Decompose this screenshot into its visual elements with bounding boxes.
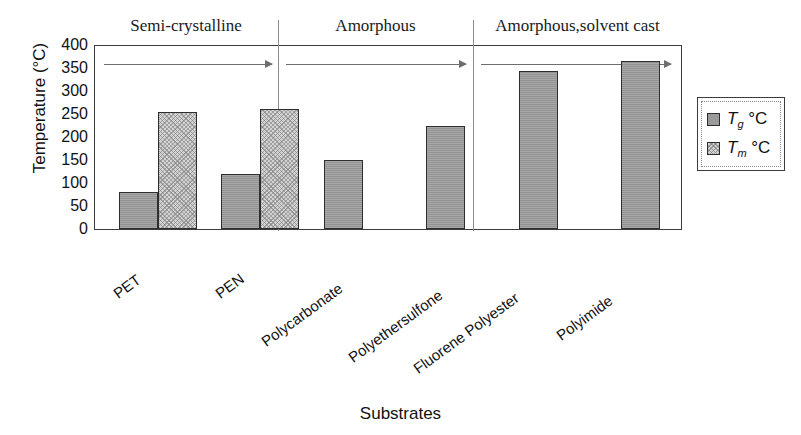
- y-tick-50: 50: [40, 198, 88, 214]
- plot-area: [94, 45, 682, 230]
- x-tick-polyimide: Polyimide: [553, 292, 616, 344]
- bar-polycarbonate-tg[interactable]: [324, 160, 363, 229]
- y-tick-400: 400: [40, 37, 88, 53]
- x-axis-title: Substrates: [0, 404, 801, 424]
- bar-pet-tg[interactable]: [119, 192, 158, 229]
- group-title-amorphous: Amorphous: [278, 16, 473, 36]
- bar-polyimide-tg[interactable]: [621, 61, 660, 229]
- y-axis-tick-labels: 400 350 300 250 200 150 100 50 0: [36, 0, 88, 435]
- legend-label-tg: Tg °C: [727, 109, 767, 130]
- y-tick-100: 100: [40, 175, 88, 191]
- x-tick-polycarbonate: Polycarbonate: [258, 280, 346, 350]
- x-tick-pet: PET: [110, 271, 144, 302]
- y-tick-150: 150: [40, 152, 88, 168]
- y-tick-200: 200: [40, 129, 88, 145]
- group-title-semi-crystalline: Semi-crystalline: [94, 16, 278, 36]
- bar-pen-tg[interactable]: [221, 174, 260, 229]
- group-arrow-amorphous: [286, 60, 466, 69]
- y-tick-300: 300: [40, 83, 88, 99]
- chart-canvas: Temperature (°C) 400 350 300 250 200 150…: [0, 0, 801, 435]
- y-tick-250: 250: [40, 106, 88, 122]
- legend-item-tg[interactable]: Tg °C: [707, 105, 784, 134]
- bar-pet-tm[interactable]: [158, 112, 197, 229]
- bar-pen-tm[interactable]: [260, 109, 299, 230]
- bar-fluorene-polyester-tg[interactable]: [519, 71, 558, 229]
- y-tick-350: 350: [40, 60, 88, 76]
- group-title-amorphous-solvent-cast: Amorphous,solvent cast: [473, 16, 682, 36]
- legend-label-tm: Tm °C: [727, 138, 770, 159]
- legend-subscript-tm: m: [737, 147, 746, 159]
- legend-subscript-tg: g: [737, 118, 743, 130]
- legend-unit-tm: °C: [751, 138, 770, 157]
- legend-symbol-tg: T: [727, 109, 737, 128]
- legend-unit-tg: °C: [748, 109, 767, 128]
- legend-swatch-tm-icon: [707, 142, 720, 155]
- legend-symbol-tm: T: [727, 138, 737, 157]
- legend-swatch-tg-icon: [707, 113, 720, 126]
- legend-item-tm[interactable]: Tm °C: [707, 134, 784, 163]
- group-divider-2: [473, 20, 474, 231]
- group-arrow-semi-crystalline: [104, 60, 272, 69]
- bar-polyethersulfone-tg[interactable]: [426, 126, 465, 229]
- x-tick-pen: PEN: [212, 270, 247, 302]
- legend: Tg °C Tm °C: [697, 97, 785, 171]
- y-tick-0: 0: [40, 221, 88, 237]
